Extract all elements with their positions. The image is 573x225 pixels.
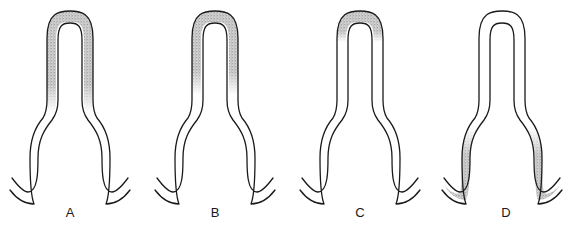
panel-a xyxy=(0,0,140,204)
panel-c xyxy=(290,0,430,204)
panel-label-b: B xyxy=(211,205,220,220)
panel-label-a: A xyxy=(66,205,75,220)
panel-b xyxy=(145,0,285,204)
hairpin-figure xyxy=(0,0,573,225)
panel-d xyxy=(432,11,572,218)
panel-label-d: D xyxy=(501,205,510,220)
panel-label-c: C xyxy=(355,205,364,220)
